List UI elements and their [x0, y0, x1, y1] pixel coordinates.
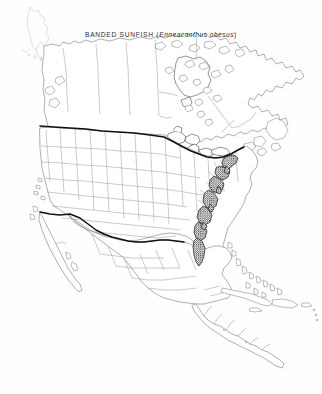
- north-america-map: [0, 0, 322, 394]
- title-close-paren: ): [234, 31, 237, 38]
- title-common-name: BANDED SUNFISH: [85, 31, 154, 38]
- central-america: [192, 304, 284, 368]
- caribbean-islands: [221, 242, 318, 321]
- distribution-map-figure: BANDED SUNFISH (Enneacanthus obesus): [0, 0, 322, 394]
- canada-landmass: [42, 32, 304, 142]
- page-title: BANDED SUNFISH (Enneacanthus obesus): [0, 31, 322, 38]
- title-scientific-name: Enneacanthus obesus: [159, 31, 234, 38]
